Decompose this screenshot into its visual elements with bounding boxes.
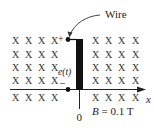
field-x-mark: X xyxy=(118,92,126,103)
field-x-mark: X xyxy=(38,62,46,73)
minus-label: – xyxy=(59,77,66,88)
wire-in-magnetic-field-diagram: XXXXXXXXXXXXXXXXXXXXXXXXXXXXXXXXXXXXXXXX… xyxy=(0,0,154,130)
field-x-mark: X xyxy=(118,62,126,73)
emf-label: e(t) xyxy=(58,67,71,78)
field-x-mark: X xyxy=(118,35,126,46)
field-x-mark: X xyxy=(92,62,100,73)
field-x-mark: X xyxy=(12,75,20,86)
field-x-mark: X xyxy=(25,35,33,46)
field-x-mark: X xyxy=(12,92,20,103)
field-x-mark: X xyxy=(105,62,113,73)
field-x-mark: X xyxy=(132,35,140,46)
field-x-mark: X xyxy=(105,92,113,103)
x-axis-label: x xyxy=(145,93,151,105)
field-x-mark: X xyxy=(25,92,33,103)
field-value: = 0.1 T xyxy=(99,105,134,117)
field-x-mark: X xyxy=(105,75,113,86)
field-x-mark: X xyxy=(38,92,46,103)
wire-bar xyxy=(76,39,83,90)
field-x-mark: X xyxy=(105,35,113,46)
field-x-mark: X xyxy=(92,49,100,60)
x-axis-arrow-icon xyxy=(137,87,146,93)
field-x-mark: X xyxy=(25,62,33,73)
field-x-mark: X xyxy=(118,75,126,86)
field-x-mark: X xyxy=(132,92,140,103)
plus-label: + xyxy=(58,33,64,44)
field-x-mark: X xyxy=(118,49,126,60)
field-x-mark: X xyxy=(132,75,140,86)
field-x-mark: X xyxy=(92,75,100,86)
field-x-mark: X xyxy=(38,49,46,60)
field-x-mark: X xyxy=(12,35,20,46)
callout-label: Wire xyxy=(105,8,127,20)
field-x-mark: X xyxy=(51,49,59,60)
field-x-mark: X xyxy=(51,92,59,103)
origin-label: 0 xyxy=(77,111,83,123)
top-terminal-dot xyxy=(66,37,71,42)
field-x-mark: X xyxy=(12,49,20,60)
field-x-mark: X xyxy=(38,75,46,86)
bottom-terminal-dot xyxy=(66,87,71,92)
field-x-mark: X xyxy=(132,49,140,60)
field-x-mark: X xyxy=(12,62,20,73)
field-x-mark: X xyxy=(25,75,33,86)
field-x-mark: X xyxy=(92,35,100,46)
field-x-mark: X xyxy=(92,92,100,103)
field-strength-label: B = 0.1 T xyxy=(92,105,134,117)
callout-arrow xyxy=(70,15,100,35)
field-x-mark: X xyxy=(38,35,46,46)
callout-arrowhead-icon xyxy=(68,32,73,38)
field-x-mark: X xyxy=(132,62,140,73)
field-x-mark: X xyxy=(25,49,33,60)
field-x-mark: X xyxy=(105,49,113,60)
